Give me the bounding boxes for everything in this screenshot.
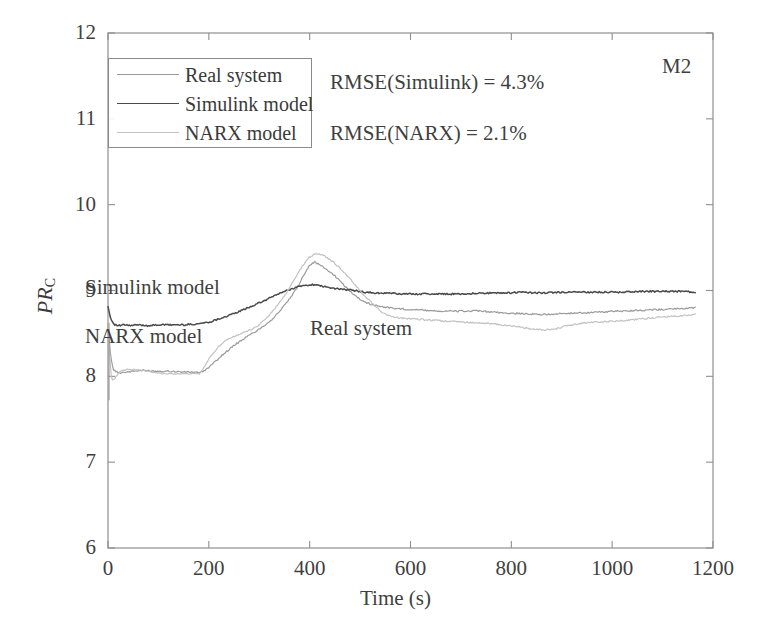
y-tick-label: 6 bbox=[56, 537, 96, 558]
legend-swatch bbox=[117, 132, 179, 133]
y-tick-label: 10 bbox=[56, 194, 96, 215]
legend-label: Real system bbox=[185, 64, 282, 87]
legend-swatch bbox=[117, 103, 179, 104]
y-tick-label: 8 bbox=[56, 365, 96, 386]
x-tick-label: 0 bbox=[68, 558, 148, 579]
x-tick-label: 200 bbox=[169, 558, 249, 579]
curve-label-narx: NARX model bbox=[85, 326, 202, 347]
x-tick-label: 1000 bbox=[572, 558, 652, 579]
figure-container: 6789101112 020040060080010001200 PRC Tim… bbox=[0, 0, 764, 637]
y-axis-title: PRC bbox=[12, 270, 72, 330]
x-tick-label: 600 bbox=[371, 558, 451, 579]
curve-label-simulink: Simulink model bbox=[85, 277, 220, 298]
x-axis-title: Time (s) bbox=[360, 588, 431, 609]
y-tick-label: 12 bbox=[56, 22, 96, 43]
x-tick-label: 400 bbox=[270, 558, 350, 579]
legend-swatch bbox=[117, 74, 179, 75]
y-tick-label: 11 bbox=[56, 108, 96, 129]
x-tick-label: 800 bbox=[471, 558, 551, 579]
legend-item: NARX model bbox=[109, 118, 311, 148]
legend-item: Real system bbox=[109, 60, 311, 90]
legend-label: Simulink model bbox=[185, 93, 313, 116]
y-tick-label: 7 bbox=[56, 451, 96, 472]
x-tick-label: 1200 bbox=[673, 558, 753, 579]
legend-item: Simulink model bbox=[109, 89, 311, 119]
rmse-simulink: RMSE(Simulink) = 4.3% bbox=[330, 72, 544, 93]
y-axis-title-base: PR bbox=[32, 287, 57, 314]
curve-label-real: Real system bbox=[310, 318, 412, 339]
y-axis-title-subscript: C bbox=[43, 278, 58, 287]
corner-tag-label: M2 bbox=[662, 56, 691, 77]
rmse-narx: RMSE(NARX) = 2.1% bbox=[330, 123, 527, 144]
legend-label: NARX model bbox=[185, 122, 297, 145]
chart-legend: Real systemSimulink modelNARX model bbox=[108, 58, 312, 148]
